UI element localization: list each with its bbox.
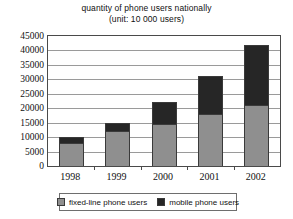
title-block: quantity of phone users nationally (unit… <box>0 3 293 25</box>
x-axis-tick-labels: 19981999200020012002 <box>47 170 281 186</box>
bar-group-1999 <box>105 123 130 166</box>
x-axis-tick-label-1999: 1999 <box>94 170 140 183</box>
bar-segment-fixed-line-2001 <box>198 114 223 166</box>
plot-area <box>47 35 281 167</box>
bar-segment-mobile-1999 <box>105 123 130 132</box>
chart-subtitle: (unit: 10 000 users) <box>0 14 293 25</box>
x-axis-tick-label-2001: 2001 <box>186 170 232 183</box>
bar-segment-mobile-2002 <box>244 45 269 106</box>
bar-group-2001 <box>198 76 223 166</box>
bar-segment-mobile-2000 <box>152 102 177 124</box>
bar-segment-fixed-line-1998 <box>59 143 84 166</box>
chart-title: quantity of phone users nationally <box>0 3 293 14</box>
x-axis-tick-label-2002: 2002 <box>233 170 279 183</box>
gridline <box>48 36 280 37</box>
legend-label-mobile: mobile phone users <box>169 198 239 207</box>
bar-chart-figure: quantity of phone users nationally (unit… <box>0 0 293 219</box>
legend-entry-mobile: mobile phone users <box>157 198 239 207</box>
y-axis-tick-label: 15000 <box>0 118 44 128</box>
x-axis-tick-mark <box>94 167 95 170</box>
x-axis-tick-label-1998: 1998 <box>47 170 93 183</box>
bar-segment-mobile-2001 <box>198 76 223 114</box>
y-axis-tick-label: 5000 <box>0 147 44 157</box>
bar-segment-fixed-line-2002 <box>244 105 269 166</box>
y-axis-tick-label: 45000 <box>0 31 44 41</box>
x-axis-tick-label-2000: 2000 <box>140 170 186 183</box>
bar-group-1998 <box>59 137 84 166</box>
y-axis-tick-labels: 0500010000150002000025000300003500040000… <box>0 35 44 167</box>
x-axis-tick-mark <box>141 167 142 170</box>
y-axis-tick-label: 35000 <box>0 60 44 70</box>
y-axis-tick-label: 25000 <box>0 89 44 99</box>
x-axis-tick-mark <box>234 167 235 170</box>
bar-segment-fixed-line-2000 <box>152 124 177 166</box>
x-axis-tick-mark <box>187 167 188 170</box>
y-axis-tick-label: 10000 <box>0 132 44 142</box>
legend-swatch-fixed-line-icon <box>57 198 65 206</box>
y-axis-tick-label: 40000 <box>0 45 44 55</box>
y-axis-tick-label: 0 <box>0 161 44 171</box>
legend-label-fixed-line: fixed-line phone users <box>69 198 147 207</box>
y-axis-tick-label: 20000 <box>0 103 44 113</box>
legend-swatch-mobile-icon <box>157 198 165 206</box>
y-axis-tick-label: 30000 <box>0 74 44 84</box>
bar-segment-fixed-line-1999 <box>105 131 130 166</box>
bar-group-2002 <box>244 45 269 166</box>
bar-group-2000 <box>152 102 177 166</box>
chart-legend: fixed-line phone users mobile phone user… <box>59 193 237 211</box>
legend-entry-fixed-line: fixed-line phone users <box>57 198 147 207</box>
